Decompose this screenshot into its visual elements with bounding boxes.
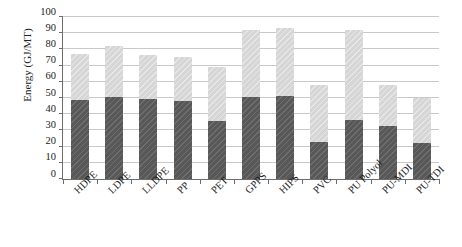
x-tick-mark — [336, 179, 337, 184]
y-tick-label: 30 — [46, 120, 57, 131]
bar-slot — [174, 17, 192, 179]
bar-slot — [276, 17, 294, 179]
bar-segment-lower — [208, 121, 226, 179]
x-tick-mark — [131, 179, 132, 184]
x-tick-mark — [97, 179, 98, 184]
bar-slot — [139, 17, 157, 179]
x-tick-mark — [439, 179, 440, 184]
bars-group — [63, 17, 439, 179]
bar-segment-upper — [413, 98, 431, 143]
y-tick-label: 80 — [46, 39, 57, 50]
bar-slot — [242, 17, 260, 179]
bar-slot — [71, 17, 89, 179]
x-tick-mark — [371, 179, 372, 184]
chart-container: Energy (GJ/MT) 0102030405060708090100 HD… — [0, 0, 462, 247]
bar-segment-upper — [71, 54, 89, 99]
bar-segment-lower — [174, 101, 192, 179]
bar-segment-upper — [310, 85, 328, 142]
y-tick-label: 90 — [46, 22, 57, 33]
bar-slot — [379, 17, 397, 179]
bar-segment-upper — [139, 55, 157, 99]
y-tick-label: 0 — [51, 168, 56, 179]
bar-slot — [413, 17, 431, 179]
bar-segment-upper — [174, 57, 192, 102]
x-tick-label: PP — [175, 180, 191, 196]
plot-area: 0102030405060708090100 — [62, 17, 439, 180]
x-tick-mark — [302, 179, 303, 184]
bar-segment-upper — [276, 28, 294, 96]
bar-segment-lower — [276, 96, 294, 179]
y-tick-label: 70 — [46, 55, 57, 66]
x-tick-mark — [63, 179, 64, 184]
x-tick-mark — [234, 179, 235, 184]
y-tick-label: 60 — [46, 71, 57, 82]
bar-slot — [345, 17, 363, 179]
y-tick-label: 50 — [46, 87, 57, 98]
y-axis-title: Energy (GJ/MT) — [20, 0, 34, 130]
bar-slot — [105, 17, 123, 179]
bar-segment-upper — [345, 30, 363, 120]
bar-slot — [208, 17, 226, 179]
x-tick-mark — [166, 179, 167, 184]
bar-segment-upper — [379, 85, 397, 126]
bar-segment-lower — [379, 126, 397, 179]
x-tick-mark — [200, 179, 201, 184]
x-tick-mark — [268, 179, 269, 184]
bar-segment-upper — [208, 67, 226, 120]
y-tick-label: 10 — [46, 152, 57, 163]
bar-segment-lower — [345, 120, 363, 179]
bar-segment-lower — [242, 97, 260, 179]
bar-segment-lower — [71, 100, 89, 179]
y-tick-label: 100 — [40, 6, 56, 17]
x-tick-mark — [405, 179, 406, 184]
bar-segment-lower — [105, 97, 123, 179]
bar-slot — [310, 17, 328, 179]
bar-segment-lower — [139, 99, 157, 179]
y-tick-label: 40 — [46, 103, 57, 114]
y-tick-label: 20 — [46, 136, 57, 147]
bar-segment-upper — [242, 30, 260, 97]
bar-segment-upper — [105, 46, 123, 97]
